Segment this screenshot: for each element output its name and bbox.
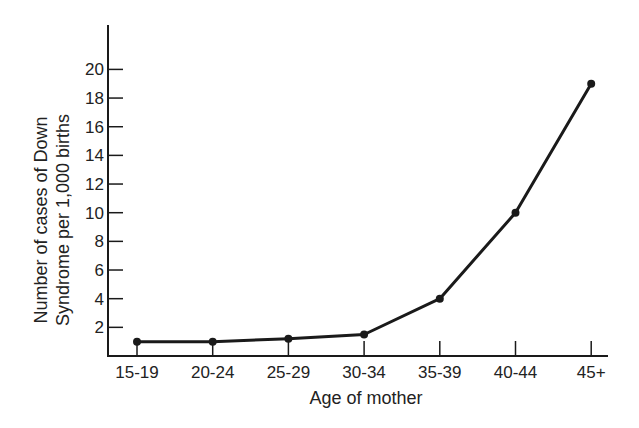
y-axis-label-line1: Number of cases of Down <box>31 116 51 323</box>
y-tick-label: 8 <box>95 232 104 251</box>
y-tick-label: 10 <box>85 204 104 223</box>
x-tick-label: 40-44 <box>494 363 537 382</box>
y-tick-label: 2 <box>95 318 104 337</box>
data-point <box>209 338 217 346</box>
x-tick-label: 15-19 <box>115 363 158 382</box>
y-tick-label: 12 <box>85 175 104 194</box>
y-axis-ticks: 2468101214161820 <box>85 60 123 337</box>
y-tick-label: 6 <box>95 261 104 280</box>
x-tick-label: 35-39 <box>418 363 461 382</box>
y-tick-label: 20 <box>85 60 104 79</box>
x-tick-label: 20-24 <box>191 363 234 382</box>
line-chart: 2468101214161820 15-1920-2425-2930-3435-… <box>0 0 639 428</box>
data-point <box>512 209 520 217</box>
data-point <box>284 335 292 343</box>
y-axis-label-line2: Syndrome per 1,000 births <box>53 114 73 326</box>
y-tick-label: 4 <box>95 290 104 309</box>
x-axis-ticks: 15-1920-2425-2930-3435-3940-4445+ <box>115 341 605 382</box>
data-point-markers <box>133 80 595 346</box>
y-tick-label: 14 <box>85 146 104 165</box>
x-tick-label: 30-34 <box>342 363 385 382</box>
data-point <box>587 80 595 88</box>
series-line <box>137 84 591 342</box>
x-tick-label: 25-29 <box>267 363 310 382</box>
data-point <box>436 295 444 303</box>
data-point <box>133 338 141 346</box>
x-axis-label: Age of mother <box>309 388 422 408</box>
y-tick-label: 16 <box>85 118 104 137</box>
x-tick-label: 45+ <box>577 363 606 382</box>
data-point <box>360 331 368 339</box>
y-tick-label: 18 <box>85 89 104 108</box>
